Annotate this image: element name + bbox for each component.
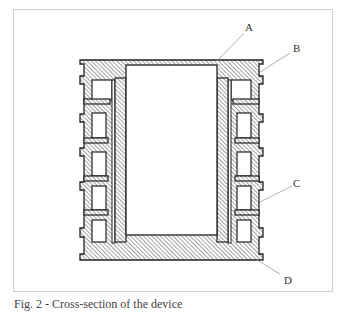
- leader-line-A: [217, 33, 244, 61]
- label-b: B: [293, 43, 300, 54]
- label-a: A: [245, 22, 253, 33]
- label-d: D: [284, 275, 292, 286]
- central-cavity: [126, 65, 217, 235]
- leader-line-B: [260, 53, 290, 72]
- leader-line-C: [260, 186, 292, 202]
- label-c: C: [293, 178, 300, 189]
- leader-line-D: [257, 260, 280, 274]
- figure-caption: Fig. 2 - Cross-section of the device: [14, 297, 182, 312]
